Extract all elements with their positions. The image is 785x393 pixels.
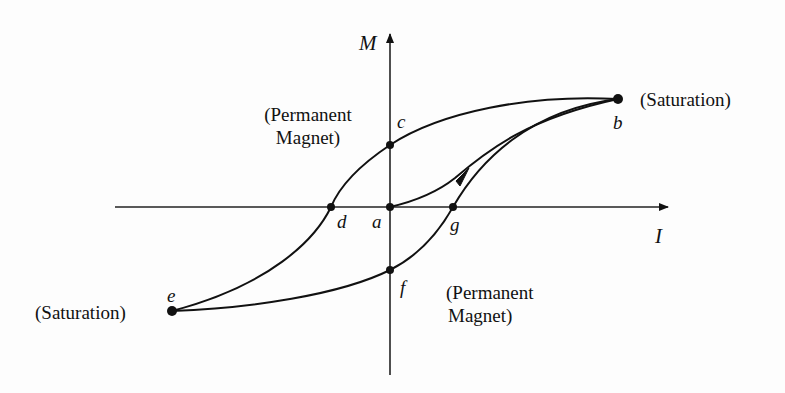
hysteresis-diagram: M I a b c d e f g (Saturation) (Saturati…: [0, 0, 785, 393]
initial-magnetization-curve: [390, 99, 618, 207]
point-label-c: c: [397, 112, 405, 131]
point-a-dot: [386, 203, 394, 211]
point-label-g: g: [450, 215, 460, 234]
permanent-magnet-bottom-line2: Magnet): [446, 305, 534, 328]
axis-label-i: I: [655, 226, 662, 247]
point-b-dot: [613, 94, 623, 104]
point-label-b: b: [613, 113, 623, 132]
permanent-magnet-label-bottom: (Permanent Magnet): [446, 282, 534, 328]
point-g-dot: [449, 203, 457, 211]
point-c-dot: [386, 141, 394, 149]
point-d-dot: [327, 203, 335, 211]
point-label-e: e: [167, 286, 175, 305]
point-e-dot: [167, 306, 177, 316]
point-label-a: a: [372, 212, 382, 231]
upper-hysteresis-branch: [172, 98, 618, 311]
point-label-d: d: [337, 212, 347, 231]
permanent-magnet-top-line1: (Permanent: [252, 104, 364, 127]
permanent-magnet-bottom-line1: (Permanent: [446, 282, 534, 305]
permanent-magnet-top-line2: Magnet): [252, 127, 364, 150]
permanent-magnet-label-top: (Permanent Magnet): [252, 104, 364, 150]
axis-label-m: M: [359, 33, 377, 54]
saturation-label-left: (Saturation): [35, 302, 126, 325]
point-label-f: f: [400, 278, 405, 297]
saturation-label-right: (Saturation): [640, 89, 731, 112]
diagram-graphics: [0, 0, 785, 393]
point-f-dot: [386, 266, 394, 274]
